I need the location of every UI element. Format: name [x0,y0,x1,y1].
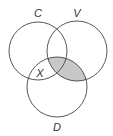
label-v: V [73,7,82,19]
label-c: C [34,7,42,19]
venn-diagram: C V D X [0,0,113,136]
label-x-region: X [35,67,44,79]
label-d: D [53,121,61,133]
